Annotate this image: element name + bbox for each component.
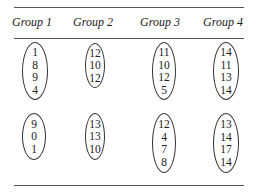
cluster-r1-g1: 1 8 9 4 xyxy=(22,42,48,100)
cluster-r2-g4: 13 14 17 14 xyxy=(213,113,239,173)
value: 12 xyxy=(89,72,101,85)
value: 5 xyxy=(161,84,167,97)
value: 10 xyxy=(89,143,101,156)
header-group-4: Group 4 xyxy=(193,15,253,30)
cluster-r1-g3: 11 10 12 5 xyxy=(152,42,176,100)
cluster-r1-g4: 14 11 13 14 xyxy=(213,42,239,100)
value: 13 xyxy=(89,118,101,131)
bottom-rule xyxy=(14,185,244,186)
value: 8 xyxy=(32,59,38,72)
value: 1 xyxy=(31,143,37,156)
value: 13 xyxy=(89,130,101,143)
value: 0 xyxy=(31,130,37,143)
cluster-r2-g3: 12 4 7 8 xyxy=(152,113,176,173)
header-group-2: Group 2 xyxy=(63,15,123,30)
value: 9 xyxy=(32,71,38,84)
value: 11 xyxy=(158,46,169,59)
value: 17 xyxy=(220,143,232,156)
value: 14 xyxy=(220,156,232,169)
value: 14 xyxy=(220,131,232,144)
value: 12 xyxy=(158,118,170,131)
value: 8 xyxy=(161,156,167,169)
value: 10 xyxy=(89,59,101,72)
value: 4 xyxy=(161,131,167,144)
cluster-r2-g1: 9 0 1 xyxy=(22,113,46,160)
header-rule xyxy=(14,38,244,39)
top-rule xyxy=(14,7,244,8)
value: 12 xyxy=(89,47,101,60)
value: 14 xyxy=(220,84,232,97)
value: 1 xyxy=(32,46,38,59)
header-group-1: Group 1 xyxy=(2,15,62,30)
value: 14 xyxy=(220,46,232,59)
value: 10 xyxy=(158,59,170,72)
value: 13 xyxy=(220,71,232,84)
value: 9 xyxy=(31,118,37,131)
value: 12 xyxy=(158,71,170,84)
header-group-3: Group 3 xyxy=(130,15,190,30)
cluster-r2-g2: 13 13 10 xyxy=(85,113,105,160)
value: 11 xyxy=(220,59,231,72)
value: 4 xyxy=(32,84,38,97)
cluster-r1-g2: 12 10 12 xyxy=(85,43,105,88)
value: 7 xyxy=(161,143,167,156)
value: 13 xyxy=(220,118,232,131)
